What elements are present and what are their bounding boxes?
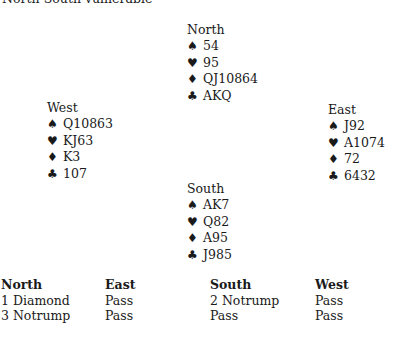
south-spades: AK7	[203, 197, 229, 212]
heart-icon: ♥	[187, 215, 203, 231]
east-spades-row: ♠J92	[328, 118, 385, 135]
south-hearts-row: ♥Q82	[187, 214, 232, 231]
hand-east: East ♠J92 ♥A1074 ♦72 ♣6432	[328, 102, 385, 185]
west-clubs-row: ♣107	[47, 166, 113, 183]
east-hearts-row: ♥A1074	[328, 135, 385, 152]
west-diamonds-row: ♦K3	[47, 149, 113, 166]
west-spades: Q10863	[63, 116, 113, 131]
hand-west: West ♠Q10863 ♥KJ63 ♦K3 ♣107	[47, 100, 113, 183]
auction-bid: Pass	[210, 308, 279, 324]
east-spades: J92	[344, 118, 365, 133]
auction-bid: Pass	[105, 308, 135, 324]
west-hearts: KJ63	[63, 133, 93, 148]
heart-icon: ♥	[47, 134, 63, 150]
auction-header-south: South	[210, 277, 279, 293]
seat-label-west: West	[47, 100, 113, 116]
seat-label-south: South	[187, 181, 232, 197]
auction-column-north: North 1 Diamond 3 Notrump	[1, 277, 70, 324]
west-clubs: 107	[63, 166, 87, 181]
heart-icon: ♥	[187, 56, 203, 72]
auction-bid: 3 Notrump	[1, 308, 70, 324]
spade-icon: ♠	[328, 119, 344, 135]
east-diamonds: 72	[344, 151, 360, 166]
south-clubs: J985	[203, 247, 232, 262]
north-spades: 54	[203, 38, 219, 53]
auction-bid: 1 Diamond	[1, 293, 70, 309]
north-diamonds: QJ10864	[203, 71, 258, 86]
auction-bid: Pass	[105, 293, 135, 309]
east-clubs: 6432	[344, 168, 376, 183]
auction-header-west: West	[315, 277, 349, 293]
south-clubs-row: ♣J985	[187, 247, 232, 264]
south-hearts: Q82	[203, 214, 229, 229]
vulnerability-label: North-South vulnerable	[2, 0, 152, 6]
seat-label-east: East	[328, 102, 385, 118]
auction-bid: Pass	[315, 293, 349, 309]
west-hearts-row: ♥KJ63	[47, 133, 113, 150]
hand-north: North ♠54 ♥95 ♦QJ10864 ♣AKQ	[187, 22, 258, 105]
auction-bid: 2 Notrump	[210, 293, 279, 309]
east-diamonds-row: ♦72	[328, 151, 385, 168]
south-diamonds: A95	[203, 230, 228, 245]
club-icon: ♣	[187, 248, 203, 264]
north-hearts: 95	[203, 55, 219, 70]
auction-header-east: East	[105, 277, 135, 293]
south-spades-row: ♠AK7	[187, 197, 232, 214]
seat-label-north: North	[187, 22, 258, 38]
north-clubs: AKQ	[203, 88, 232, 103]
north-spades-row: ♠54	[187, 38, 258, 55]
diamond-icon: ♦	[187, 72, 203, 88]
spade-icon: ♠	[187, 39, 203, 55]
spade-icon: ♠	[47, 117, 63, 133]
auction-column-east: East Pass Pass	[105, 277, 135, 324]
heart-icon: ♥	[328, 136, 344, 152]
diamond-icon: ♦	[187, 231, 203, 247]
hand-south: South ♠AK7 ♥Q82 ♦A95 ♣J985	[187, 181, 232, 264]
club-icon: ♣	[47, 167, 63, 183]
auction-column-west: West Pass Pass	[315, 277, 349, 324]
auction-column-south: South 2 Notrump Pass	[210, 277, 279, 324]
diamond-icon: ♦	[328, 152, 344, 168]
club-icon: ♣	[328, 169, 344, 185]
west-spades-row: ♠Q10863	[47, 116, 113, 133]
east-hearts: A1074	[344, 135, 385, 150]
club-icon: ♣	[187, 89, 203, 105]
auction-bid: Pass	[315, 308, 349, 324]
south-diamonds-row: ♦A95	[187, 230, 232, 247]
north-diamonds-row: ♦QJ10864	[187, 71, 258, 88]
spade-icon: ♠	[187, 198, 203, 214]
west-diamonds: K3	[63, 149, 80, 164]
north-clubs-row: ♣AKQ	[187, 88, 258, 105]
auction-header-north: North	[1, 277, 70, 293]
diamond-icon: ♦	[47, 150, 63, 166]
north-hearts-row: ♥95	[187, 55, 258, 72]
east-clubs-row: ♣6432	[328, 168, 385, 185]
